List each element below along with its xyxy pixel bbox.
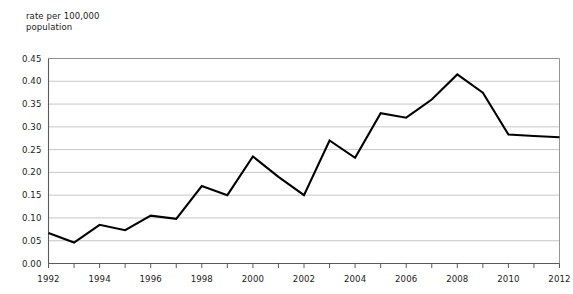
y-tick-label: 0.30 — [22, 122, 42, 132]
x-tick-label: 1996 — [140, 274, 162, 284]
x-tick-label: 2010 — [497, 274, 519, 284]
y-axis-tick-labels: 0.000.050.100.150.200.250.300.350.400.45 — [22, 54, 42, 269]
y-tick-label: 0.10 — [22, 213, 42, 223]
series-line — [49, 74, 560, 242]
x-tick-label: 2008 — [446, 274, 468, 284]
y-tick-label: 0.25 — [22, 145, 42, 155]
y-tick-label: 0.35 — [22, 99, 42, 109]
x-axis-tick-labels: 1992199419961998200020022004200620082010… — [37, 274, 570, 284]
y-tick-label: 0.45 — [22, 54, 42, 64]
x-tick-label: 1994 — [88, 274, 110, 284]
plot-frame — [49, 59, 560, 264]
x-tick-label: 2004 — [344, 274, 366, 284]
data-series — [49, 74, 560, 242]
gridlines — [49, 59, 560, 264]
x-tick-label: 2012 — [548, 274, 570, 284]
y-tick-label: 0.40 — [22, 76, 42, 86]
x-tick-label: 1992 — [37, 274, 59, 284]
x-tick-label: 2002 — [293, 274, 315, 284]
line-chart: rate per 100,000 population 0.000.050.10… — [0, 0, 573, 294]
y-tick-label: 0.20 — [22, 167, 42, 177]
x-tick-label: 2000 — [242, 274, 264, 284]
x-axis-ticks — [49, 264, 560, 269]
x-tick-label: 2006 — [395, 274, 417, 284]
y-tick-label: 0.15 — [22, 190, 42, 200]
y-tick-label: 0.00 — [22, 259, 42, 269]
chart-plot-area: 0.000.050.100.150.200.250.300.350.400.45… — [0, 0, 573, 294]
x-tick-label: 1998 — [191, 274, 213, 284]
y-tick-label: 0.05 — [22, 236, 42, 246]
